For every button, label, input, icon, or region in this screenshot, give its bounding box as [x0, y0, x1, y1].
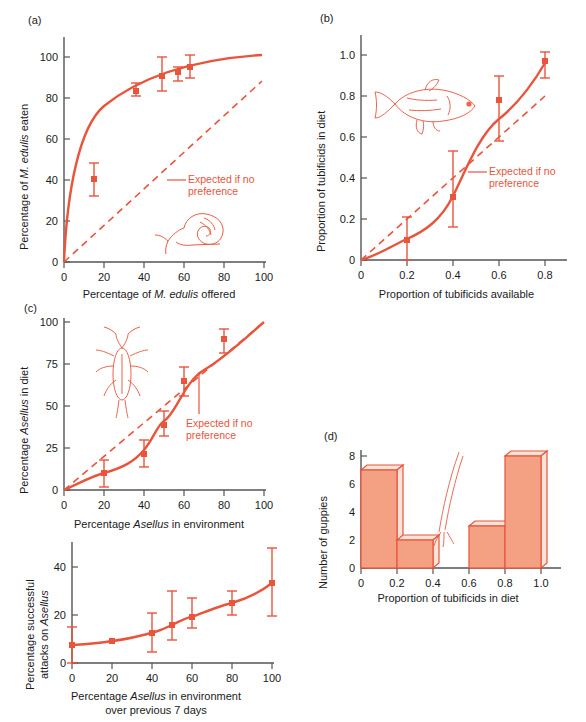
svg-text:0: 0	[52, 484, 58, 496]
panel-b-x-axis-label: Proportion of tubificids available	[329, 288, 584, 302]
panel-d-xlabel-text: Proportion of tubificids in diet	[377, 592, 518, 604]
svg-text:50: 50	[46, 400, 58, 412]
svg-text:0.4: 0.4	[445, 269, 460, 281]
panel-e-y-ticks: 0 20 40	[54, 561, 78, 669]
svg-text:6: 6	[349, 478, 355, 490]
panel-a-label: (a)	[28, 14, 41, 26]
panel-b-y-axis-label: Proportion of tubificids in diet	[315, 111, 329, 252]
svg-text:40: 40	[138, 499, 150, 511]
panel-b-x-ticks: 0 0.2 0.4 0.6 0.8	[358, 260, 553, 281]
panel-a-fitted-curve	[64, 55, 262, 262]
svg-text:0: 0	[52, 256, 58, 268]
svg-text:0: 0	[61, 271, 67, 283]
panel-b-plot: 0 0.2 0.4 0.6 0.8 1.0 0 0.2 0.4 0.6 0.8	[329, 30, 584, 280]
svg-text:80: 80	[46, 92, 58, 104]
panel-e-xlabel-line2: over previous 7 days	[105, 704, 207, 716]
svg-text:100: 100	[255, 271, 273, 283]
panel-c-error-bars	[99, 329, 229, 487]
panel-b: (b) Proportion of tubificids in diet 0 0…	[293, 0, 586, 300]
panel-c-data-points	[101, 336, 227, 476]
panel-c-annotation-line2: preference	[186, 429, 236, 441]
panel-e-y-axis-label: Percentage successful attacks on Asellus	[24, 579, 52, 690]
panel-e-plot: 0 20 40 0 20 40 60 80 100	[50, 538, 290, 688]
svg-text:0.6: 0.6	[491, 269, 506, 281]
panel-c-x-ticks: 0 20 40 60 80 100	[61, 490, 273, 511]
snail-icon	[155, 214, 223, 254]
panel-a-annotation-line1: Expected if no	[188, 173, 255, 185]
svg-text:0.2: 0.2	[389, 577, 404, 589]
panel-e: Percentage successful attacks on Asellus…	[0, 530, 290, 722]
svg-text:0.6: 0.6	[340, 131, 355, 143]
plant-icon	[434, 452, 463, 547]
panel-d-plot: 0 2 4 6 8 0 0.2 0.4 0.6 0.8 1.0	[331, 446, 581, 596]
panel-a-y-axis-label: Percentage of M. edulis eaten	[18, 104, 32, 250]
svg-text:2: 2	[349, 534, 355, 546]
svg-text:0: 0	[358, 269, 364, 281]
panel-d-x-axis-label: Proportion of tubificids in diet	[323, 592, 573, 606]
panel-e-ylabel-line2: attacks on Asellus	[38, 590, 50, 679]
svg-text:0: 0	[358, 577, 364, 589]
svg-text:20: 20	[106, 672, 118, 684]
panel-d: (d) Number of guppies 0 2 4 6 8 0 0.2	[293, 424, 586, 614]
svg-text:100: 100	[40, 51, 58, 63]
panel-a-plot: 0 20 40 60 80 100 0 20 40 60 80 100	[34, 32, 284, 282]
svg-text:0: 0	[61, 499, 67, 511]
panel-e-x-ticks: 0 20 40 60 80 100	[69, 663, 281, 684]
svg-text:0.6: 0.6	[461, 577, 476, 589]
panel-d-label: (d)	[324, 430, 337, 442]
panel-c-label: (c)	[24, 302, 37, 314]
svg-text:60: 60	[178, 271, 190, 283]
svg-text:0.8: 0.8	[340, 90, 355, 102]
svg-text:8: 8	[349, 450, 355, 462]
panel-b-annotation-line1: Expected if no	[489, 165, 556, 177]
panel-a-error-bars	[89, 55, 195, 196]
panel-a: (a) Percentage of M. edulis eaten 0 20 4…	[0, 0, 290, 300]
panel-c-annotation-line1: Expected if no	[186, 417, 253, 429]
panel-b-label: (b)	[320, 12, 333, 24]
svg-text:0.8: 0.8	[537, 269, 552, 281]
svg-text:20: 20	[98, 271, 110, 283]
svg-text:40: 40	[146, 672, 158, 684]
svg-text:75: 75	[46, 358, 58, 370]
bar-1	[397, 535, 439, 568]
svg-text:60: 60	[46, 133, 58, 145]
svg-text:100: 100	[255, 499, 273, 511]
panel-c-xlabel-text: Percentage Asellus in environment	[74, 518, 244, 530]
svg-text:0: 0	[349, 562, 355, 574]
panel-e-ylabel-line1: Percentage successful	[24, 579, 36, 690]
svg-text:4: 4	[349, 506, 355, 518]
svg-text:40: 40	[46, 174, 58, 186]
panel-c-plot: 0 25 50 75 100 0 20 40 60 80 100	[34, 314, 284, 514]
panel-c-y-ticks: 0 25 50 75 100	[40, 316, 70, 496]
panel-b-ylabel-text: Proportion of tubificids in diet	[315, 111, 327, 252]
svg-text:1.0: 1.0	[340, 49, 355, 61]
svg-text:0.2: 0.2	[340, 213, 355, 225]
svg-text:1.0: 1.0	[533, 577, 548, 589]
panel-d-x-ticks: 0 0.2 0.4 0.6 0.8 1.0	[358, 568, 549, 589]
panel-e-x-axis-label: Percentage Asellus in environment over p…	[36, 690, 276, 718]
svg-text:0.8: 0.8	[497, 577, 512, 589]
panel-c-y-axis-label: Percentage Asellus in diet	[18, 367, 32, 494]
panel-d-y-axis-label: Number of guppies	[317, 496, 331, 589]
water-louse-icon	[96, 327, 148, 418]
panel-c-ylabel-text: Percentage Asellus in diet	[18, 367, 30, 494]
panel-c: (c) Percentage Asellus in diet 0 25 50 7…	[0, 296, 290, 532]
guppy-fish-icon	[375, 79, 475, 134]
panel-b-xlabel-text: Proportion of tubificids available	[379, 288, 534, 300]
panel-e-error-bars	[67, 548, 277, 663]
svg-text:20: 20	[46, 215, 58, 227]
svg-text:0: 0	[69, 672, 75, 684]
svg-text:0: 0	[60, 657, 66, 669]
svg-text:0.2: 0.2	[399, 269, 414, 281]
svg-text:0: 0	[349, 254, 355, 266]
svg-text:20: 20	[98, 499, 110, 511]
panel-d-ylabel-text: Number of guppies	[317, 496, 329, 589]
svg-text:0.4: 0.4	[425, 577, 440, 589]
svg-text:60: 60	[178, 499, 190, 511]
svg-text:80: 80	[226, 672, 238, 684]
panel-b-y-ticks: 0 0.2 0.4 0.6 0.8 1.0	[340, 49, 367, 266]
panel-a-ylabel-text: Percentage of M. edulis eaten	[18, 104, 30, 250]
svg-text:40: 40	[138, 271, 150, 283]
svg-text:40: 40	[54, 561, 66, 573]
panel-a-annotation-line2: preference	[188, 185, 238, 197]
